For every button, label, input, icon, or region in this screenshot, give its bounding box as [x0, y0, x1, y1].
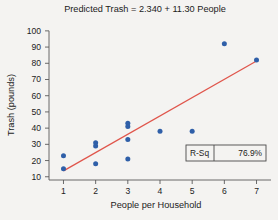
y-tick-label: 40 — [31, 123, 41, 133]
data-point — [222, 41, 227, 46]
x-tick-label: 3 — [125, 186, 130, 196]
data-point — [125, 124, 130, 129]
data-point — [125, 156, 130, 161]
x-tick-label: 5 — [190, 186, 195, 196]
data-point — [158, 129, 163, 134]
data-point — [190, 129, 195, 134]
y-tick-label: 70 — [31, 74, 41, 84]
r-squared-value: 76.9% — [238, 148, 262, 158]
y-tick-label: 30 — [31, 139, 41, 149]
r-squared-legend: R-Sq 76.9% — [186, 145, 266, 161]
data-point — [125, 137, 130, 142]
y-axis-title: Trash (pounds) — [6, 74, 16, 136]
x-tick-label: 4 — [158, 186, 163, 196]
y-tick-label: 100 — [27, 26, 42, 36]
x-axis-title: People per Household — [111, 200, 202, 210]
y-tick-label: 10 — [31, 172, 41, 182]
scatter-chart: Predicted Trash = 2.340 + 11.30 People T… — [0, 0, 278, 220]
y-tick-label: 50 — [31, 107, 41, 117]
chart-title: Predicted Trash = 2.340 + 11.30 People — [64, 4, 226, 14]
y-tick-label: 80 — [31, 58, 41, 68]
y-tick-label: 60 — [31, 91, 41, 101]
x-tick-label: 7 — [254, 186, 259, 196]
chart-background — [0, 0, 278, 220]
data-point — [93, 143, 98, 148]
data-point — [61, 153, 66, 158]
data-point — [254, 58, 259, 63]
y-tick-label: 20 — [31, 156, 41, 166]
data-point — [61, 166, 66, 171]
data-point — [93, 161, 98, 166]
x-tick-label: 2 — [93, 186, 98, 196]
r-squared-label: R-Sq — [190, 148, 209, 158]
x-tick-label: 1 — [61, 186, 66, 196]
y-tick-label: 90 — [31, 42, 41, 52]
x-tick-label: 6 — [222, 186, 227, 196]
chart-canvas: Predicted Trash = 2.340 + 11.30 People T… — [0, 0, 278, 220]
